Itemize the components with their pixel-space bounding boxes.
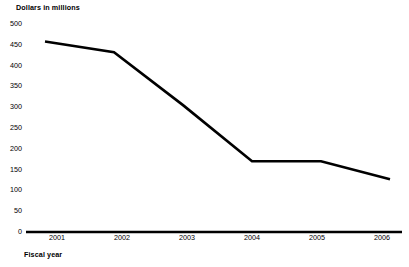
data-series-line (45, 41, 390, 179)
x-tick-label-2001: 2001 (37, 234, 77, 242)
line-chart: Dollars in millions 500 450 400 350 300 … (0, 0, 409, 267)
x-tick-label-2006: 2006 (362, 234, 402, 242)
x-tick-label-2003: 2003 (167, 234, 207, 242)
x-tick-label-2004: 2004 (232, 234, 272, 242)
plot-area (0, 0, 409, 267)
x-tick-label-2005: 2005 (297, 234, 337, 242)
x-axis-title: Fiscal year (24, 250, 62, 259)
x-tick-label-2002: 2002 (102, 234, 142, 242)
